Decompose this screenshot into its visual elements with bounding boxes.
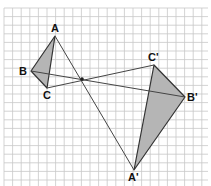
triangle-abc bbox=[31, 36, 55, 88]
label-a-prime: A' bbox=[128, 172, 139, 183]
diagram-canvas bbox=[0, 0, 211, 186]
center-of-dilation-point bbox=[80, 77, 84, 81]
label-b: B bbox=[19, 66, 27, 77]
label-b-prime: B' bbox=[187, 92, 198, 103]
label-a: A bbox=[51, 23, 59, 34]
label-c-prime: C' bbox=[148, 52, 159, 63]
label-c: C bbox=[43, 90, 51, 101]
